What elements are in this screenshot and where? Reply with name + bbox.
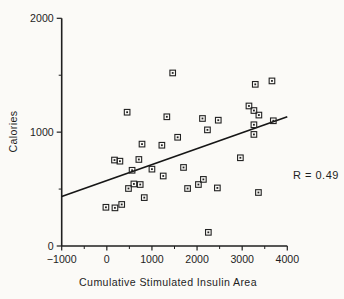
data-point-center-dot <box>258 114 260 116</box>
data-point-center-dot <box>172 72 174 74</box>
data-point-center-dot <box>253 134 255 136</box>
data-point-center-dot <box>202 118 204 120</box>
axis-ticks <box>57 18 288 250</box>
data-point-center-dot <box>151 168 153 170</box>
data-point-center-dot <box>114 159 116 161</box>
data-point-center-dot <box>271 80 273 82</box>
x-tick-label: 1000 <box>140 253 164 265</box>
data-point-center-dot <box>138 159 140 161</box>
data-point-center-dot <box>177 136 179 138</box>
data-point-center-dot <box>114 207 116 209</box>
data-point-center-dot <box>198 184 200 186</box>
scatter-points <box>103 70 276 235</box>
x-tick-label: 0 <box>104 253 110 265</box>
correlation-annotation: R = 0.49 <box>293 169 339 181</box>
data-point-center-dot <box>187 188 189 190</box>
regression-line-segment <box>62 117 288 197</box>
data-point-center-dot <box>258 192 260 194</box>
y-tick-label: 2000 <box>30 12 54 24</box>
data-point-center-dot <box>133 183 135 185</box>
x-tick-label: 2000 <box>185 253 209 265</box>
data-point-center-dot <box>253 124 255 126</box>
data-point-center-dot <box>139 184 141 186</box>
y-axis-title: Calories <box>7 110 19 152</box>
axis-tick-labels: −100001000200030004000010002000 <box>30 12 299 265</box>
data-point-center-dot <box>254 83 256 85</box>
data-point-center-dot <box>121 204 123 206</box>
data-point-center-dot <box>162 175 164 177</box>
data-point-center-dot <box>217 119 219 121</box>
data-point-center-dot <box>202 178 204 180</box>
data-point-center-dot <box>207 231 209 233</box>
scatter-chart-canvas: −100001000200030004000010002000 Cumulati… <box>0 0 344 299</box>
data-point-center-dot <box>141 143 143 145</box>
data-point-center-dot <box>253 110 255 112</box>
x-tick-label: 3000 <box>230 253 254 265</box>
data-point-center-dot <box>207 129 209 131</box>
data-point-center-dot <box>183 167 185 169</box>
data-point-center-dot <box>239 157 241 159</box>
y-tick-label: 1000 <box>30 126 54 138</box>
data-point-center-dot <box>166 116 168 118</box>
insulin-calories-scatter-figure: −100001000200030004000010002000 Cumulati… <box>0 0 344 299</box>
data-point-center-dot <box>248 105 250 107</box>
y-tick-label: 0 <box>48 240 54 252</box>
data-point-center-dot <box>216 187 218 189</box>
x-tick-label: −1000 <box>47 253 77 265</box>
data-point-center-dot <box>272 120 274 122</box>
data-point-center-dot <box>161 144 163 146</box>
data-point-center-dot <box>119 160 121 162</box>
data-point-center-dot <box>143 197 145 199</box>
regression-line <box>62 117 288 197</box>
x-axis-title: Cumulative Stimulated Insulin Area <box>79 276 257 288</box>
data-point-center-dot <box>128 188 130 190</box>
data-point-center-dot <box>131 169 133 171</box>
x-tick-label: 4000 <box>276 253 300 265</box>
data-point-center-dot <box>126 111 128 113</box>
data-point-center-dot <box>105 206 107 208</box>
